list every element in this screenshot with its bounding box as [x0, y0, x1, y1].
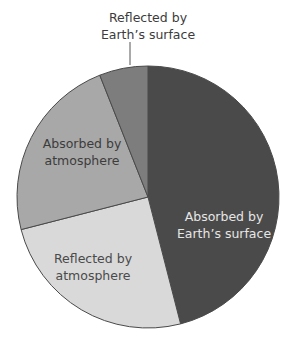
pie-chart: Absorbed byEarth’s surfaceReflected byat…: [0, 0, 297, 348]
pie-slices: [17, 66, 279, 328]
slice-label-3: Reflected byEarth’s surface: [101, 10, 195, 42]
